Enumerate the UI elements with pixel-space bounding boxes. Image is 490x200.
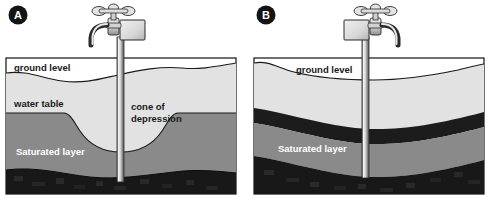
label-ground-level-b: ground level — [296, 64, 352, 75]
panel-badge-label-a: A — [14, 9, 22, 21]
faucet-handle-bar-b — [361, 9, 390, 13]
label-ground-level-a: ground level — [14, 62, 70, 73]
faucet-b — [344, 4, 398, 45]
panel-badge-a: A — [9, 6, 28, 25]
label-cone-of-depression-line1-a: cone of — [131, 101, 166, 112]
panel-badge-b: B — [257, 6, 276, 25]
faucet-box-b — [344, 20, 369, 40]
groundwater-diagram-figure: A ground level water table cone of depre… — [0, 0, 490, 200]
panel-badge-label-b: B — [262, 9, 270, 21]
faucet-box-a — [120, 20, 145, 40]
panel-a: A ground level water table cone of depre… — [0, 0, 242, 200]
faucet-handle-bar-a — [99, 9, 128, 13]
label-saturated-layer-a: Saturated layer — [16, 146, 85, 157]
label-saturated-layer-b: Saturated layer — [278, 143, 347, 154]
well-pipe-b — [362, 37, 369, 178]
panel-b: B ground level Saturated layer — [248, 0, 490, 200]
label-cone-of-depression-line2-a: depression — [131, 113, 182, 124]
well-pipe-a — [117, 37, 124, 182]
label-water-table-a: water table — [13, 98, 64, 109]
